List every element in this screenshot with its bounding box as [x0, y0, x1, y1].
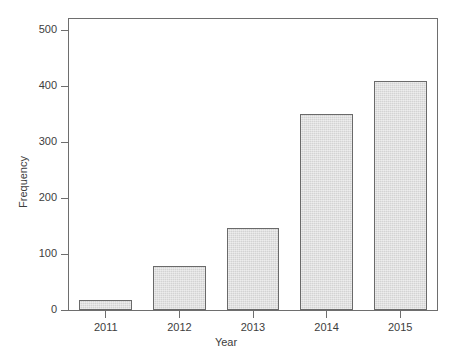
bar-2015: [374, 81, 427, 310]
x-tick-mark: [179, 311, 180, 318]
y-tick-mark: [61, 86, 68, 87]
y-tick-mark: [61, 142, 68, 143]
y-tick-mark: [61, 30, 68, 31]
x-tick-mark: [326, 311, 327, 318]
x-tick-mark: [105, 311, 106, 318]
y-tick-mark: [61, 254, 68, 255]
y-tick-label: 100: [39, 247, 57, 260]
x-axis-title: Year: [0, 336, 458, 349]
y-tick-label: 500: [39, 23, 57, 36]
y-tick-label: 400: [39, 79, 57, 92]
y-tick-label: 200: [39, 191, 57, 204]
x-tick-label: 2014: [303, 321, 351, 334]
x-tick-mark: [253, 311, 254, 318]
bar-2011: [79, 300, 132, 310]
bars-layer: [69, 19, 437, 310]
x-tick-label: 2015: [376, 321, 424, 334]
bar-2012: [153, 266, 206, 310]
bar-chart: 0 100 200 300 400 500 2011 20: [0, 0, 458, 364]
y-axis-title: Frequency: [14, 0, 32, 364]
bar-2014: [300, 114, 353, 310]
bar-2013: [227, 228, 280, 310]
x-tick-label: 2011: [82, 321, 130, 334]
y-tick-mark: [61, 198, 68, 199]
x-tick-label: 2013: [229, 321, 277, 334]
x-tick-mark: [400, 311, 401, 318]
y-axis-title-text: Frequency: [17, 156, 30, 208]
x-tick-label: 2012: [155, 321, 203, 334]
y-tick-label: 300: [39, 135, 57, 148]
x-axis-title-text: Year: [215, 336, 237, 348]
y-axis: 0 100 200 300 400 500: [0, 0, 68, 364]
